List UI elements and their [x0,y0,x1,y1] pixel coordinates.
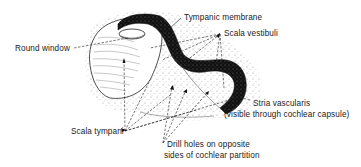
round-window-opening [119,29,145,39]
label-drill-holes-note: sides of cochlear partition [164,151,260,160]
label-scala-tympani: Scala tympani [71,127,124,136]
label-stria-vascularis-note: (visible through cochlear capsule) [224,110,349,119]
label-scala-vestibuli: Scala vestibuli [224,29,278,38]
cochlea-diagram: Tympanic membrane Scala vestibuli Round … [0,0,361,167]
label-round-window: Round window [15,44,70,53]
label-drill-holes: Drill holes on opposite [167,140,250,149]
label-tympanic-membrane: Tympanic membrane [184,13,262,22]
label-stria-vascularis: Stria vascularis [253,99,310,108]
